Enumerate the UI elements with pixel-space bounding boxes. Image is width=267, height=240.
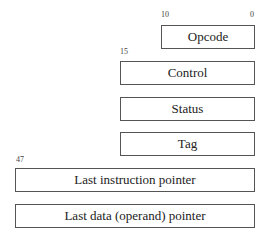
last-instruction-label: Last instruction pointer (74, 172, 195, 188)
last-data-label: Last data (operand) pointer (64, 208, 205, 224)
last-data-pointer-register: Last data (operand) pointer (15, 204, 255, 228)
last-instruction-bit-high: 47 (16, 155, 24, 164)
status-register: Status (120, 97, 255, 121)
tag-label: Tag (178, 136, 197, 152)
opcode-register: Opcode (161, 25, 255, 49)
opcode-label: Opcode (188, 29, 228, 45)
last-instruction-pointer-register: Last instruction pointer (15, 168, 255, 192)
tag-register: Tag (120, 132, 255, 156)
opcode-bit-low: 0 (250, 10, 254, 19)
control-register: Control (120, 61, 255, 85)
control-bit-high: 15 (120, 47, 128, 56)
status-label: Status (172, 101, 204, 117)
opcode-bit-high: 10 (161, 10, 169, 19)
control-label: Control (168, 65, 208, 81)
